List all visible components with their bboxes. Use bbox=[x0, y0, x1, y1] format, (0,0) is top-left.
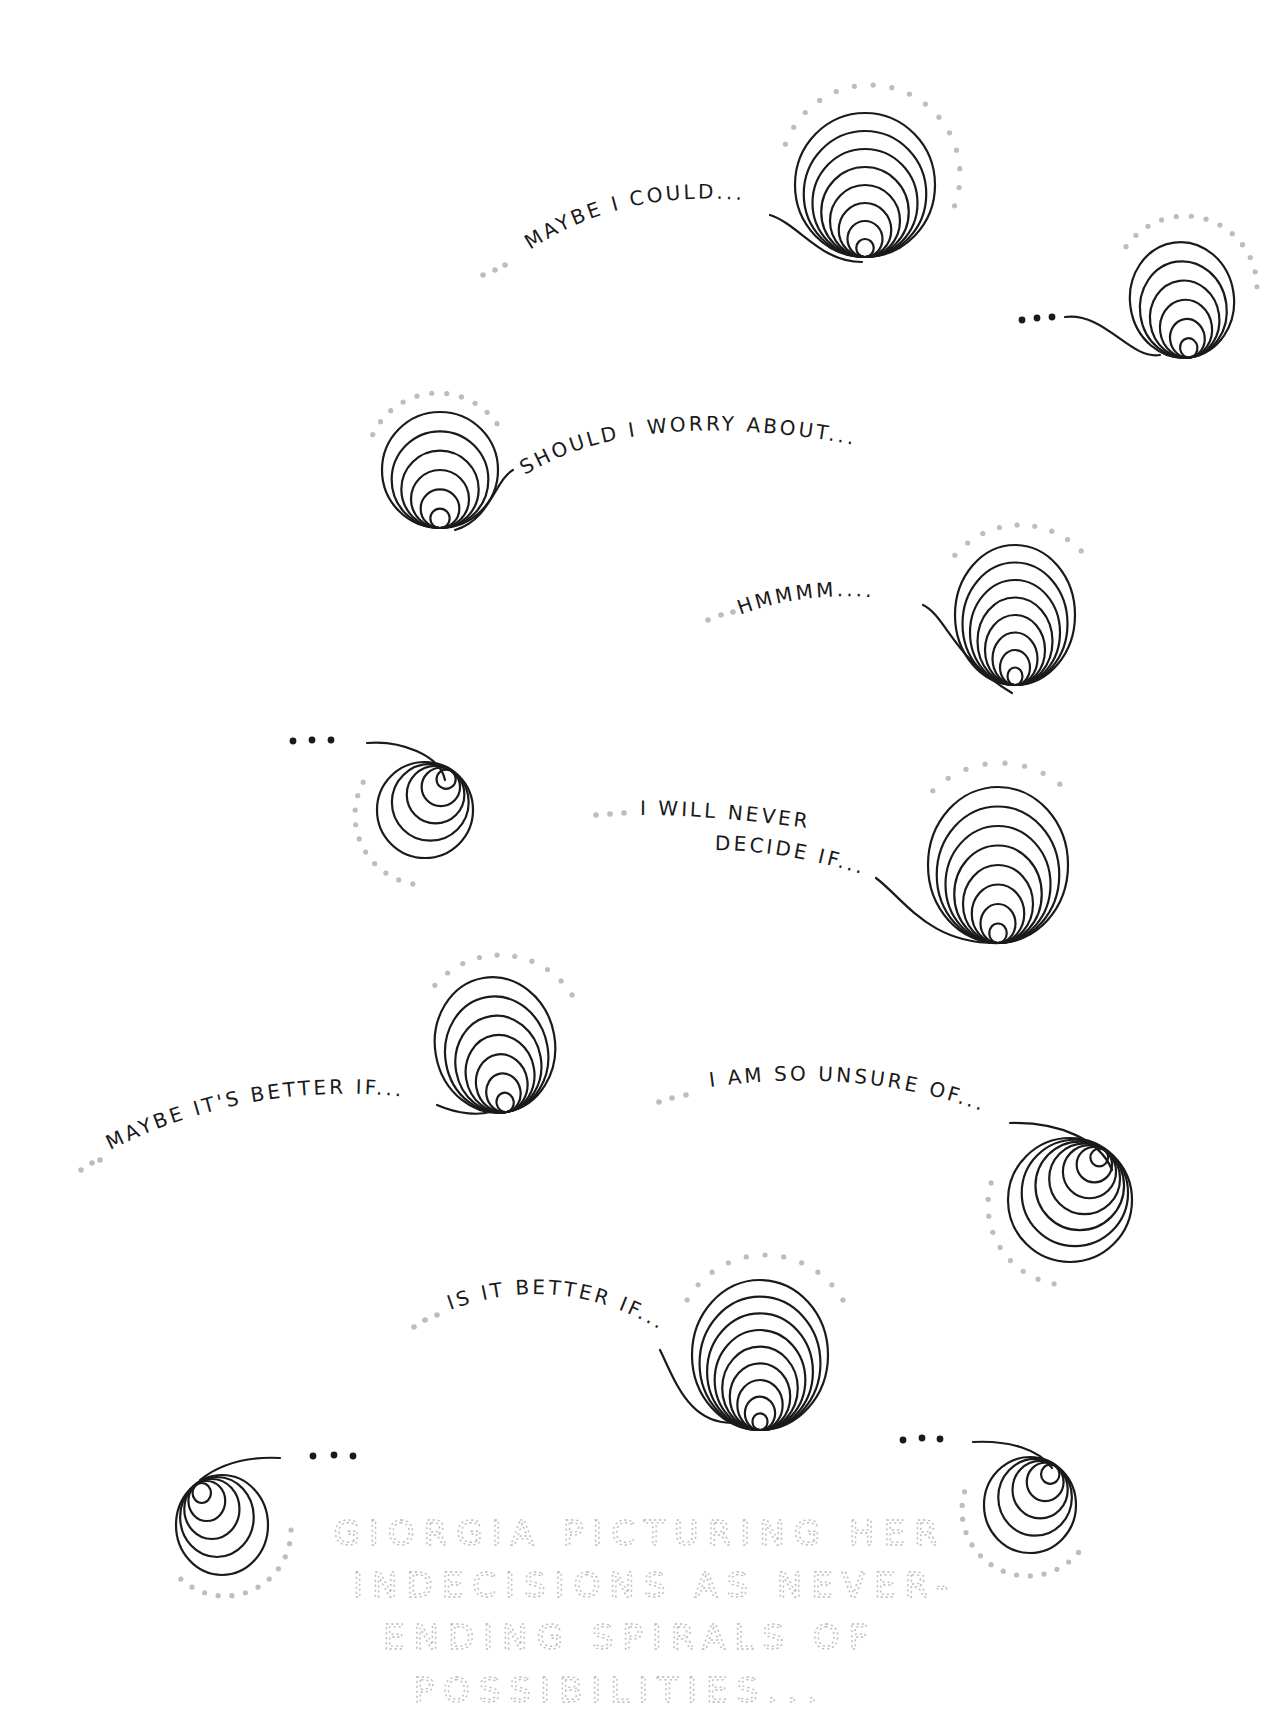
lead-dot bbox=[607, 811, 613, 817]
ellipsis-dot bbox=[900, 1437, 907, 1444]
spiral-icon bbox=[692, 1280, 828, 1430]
spiral-icon bbox=[1122, 235, 1241, 364]
lead-dot bbox=[502, 262, 508, 268]
caption-line-2: INDECISIONS AS NEVER- bbox=[353, 1565, 957, 1605]
caption-line-3: ENDING SPIRALS OF bbox=[383, 1617, 877, 1657]
ellipsis-dot bbox=[1019, 317, 1026, 324]
dotted-halo bbox=[370, 391, 499, 437]
dotted-halo bbox=[684, 1252, 845, 1302]
lead-dot bbox=[669, 1095, 675, 1101]
ellipsis-dot bbox=[328, 737, 335, 744]
spiral-icon bbox=[424, 968, 566, 1123]
ellipsis-dot bbox=[919, 1435, 926, 1442]
lead-dot bbox=[730, 609, 736, 615]
thought-ellipsis-top-right bbox=[1019, 214, 1260, 365]
thought-text: DECIDE IF... bbox=[715, 831, 869, 880]
thought-text: IS IT BETTER IF... bbox=[444, 1275, 671, 1335]
thought-should-i-worry: SHOULD I WORRY ABOUT...? bbox=[0, 0, 859, 530]
dotted-halo bbox=[178, 1527, 293, 1598]
lead-dot bbox=[78, 1167, 84, 1173]
thought-text: I WILL NEVER bbox=[640, 796, 812, 833]
spiral-icon bbox=[377, 762, 473, 858]
thought-ellipsis-bottom-left bbox=[176, 1452, 356, 1599]
dotted-halo bbox=[960, 1489, 1082, 1578]
lead-dot bbox=[89, 1160, 95, 1166]
thought-i-will-never-decide: I WILL NEVERDECIDE IF... bbox=[593, 761, 1068, 944]
thought-text: MAYBE I COULD... bbox=[520, 180, 746, 255]
thought-hmmmm: HMMMM.... bbox=[705, 522, 1084, 693]
lead-dot bbox=[411, 1324, 417, 1330]
spiral-icon bbox=[928, 787, 1068, 943]
dotted-halo bbox=[952, 522, 1083, 558]
spiral-tail bbox=[367, 743, 445, 780]
thought-maybe-its-better-if: MAYBE IT'S BETTER IF... bbox=[78, 952, 574, 1172]
spiral-icon bbox=[382, 412, 498, 528]
thought-maybe-i-could: MAYBE I COULD... bbox=[480, 82, 962, 277]
ellipsis-dot bbox=[309, 737, 316, 744]
spiral-icon bbox=[1008, 1138, 1132, 1262]
spiral-icon bbox=[795, 113, 935, 257]
ellipsis-dot bbox=[331, 1452, 338, 1459]
lead-dot bbox=[434, 1312, 440, 1318]
ellipsis-dot bbox=[310, 1453, 317, 1460]
lead-dot bbox=[621, 810, 627, 816]
spiral-tail bbox=[1065, 317, 1160, 356]
caption-line-1: GIORGIA PICTURING HER bbox=[333, 1513, 946, 1553]
lead-dot bbox=[683, 1092, 689, 1098]
dotted-halo bbox=[1123, 214, 1259, 290]
thought-is-it-better-if: IS IT BETTER IF... bbox=[411, 1252, 845, 1430]
thought-ellipsis-bottom-right bbox=[900, 1435, 1082, 1579]
caption: GIORGIA PICTURING HER INDECISIONS AS NEV… bbox=[333, 1513, 956, 1710]
lead-dot bbox=[492, 267, 498, 273]
lead-dot bbox=[705, 617, 711, 623]
spiral-icon bbox=[176, 1475, 268, 1575]
ellipsis-dot bbox=[1034, 315, 1041, 322]
illustration-canvas: MAYBE I COULD...SHOULD I WORRY ABOUT...?… bbox=[0, 0, 1285, 1735]
thought-text: SHOULD I WORRY ABOUT...? bbox=[0, 0, 859, 479]
ellipsis-dot bbox=[1049, 314, 1056, 321]
thought-text: I AM SO UNSURE OF... bbox=[708, 1062, 990, 1117]
thought-spirals-layer: MAYBE I COULD...SHOULD I WORRY ABOUT...?… bbox=[0, 0, 1260, 1598]
thought-i-am-so-unsure: I AM SO UNSURE OF... bbox=[656, 1062, 1132, 1287]
ellipsis-dot bbox=[290, 738, 297, 745]
ellipsis-dot bbox=[937, 1436, 944, 1443]
dotted-halo bbox=[432, 952, 574, 997]
lead-dot bbox=[422, 1317, 428, 1323]
spiral-icon bbox=[984, 1457, 1076, 1553]
lead-dot bbox=[593, 812, 599, 818]
thought-text: MAYBE IT'S BETTER IF... bbox=[102, 1075, 406, 1155]
lead-dot bbox=[97, 1157, 103, 1163]
dotted-halo bbox=[930, 761, 1062, 794]
lead-dot bbox=[480, 272, 486, 278]
ellipsis-dot bbox=[350, 1453, 357, 1460]
lead-dot bbox=[718, 612, 724, 618]
thought-text: HMMMM.... bbox=[734, 577, 876, 619]
lead-dot bbox=[656, 1099, 662, 1105]
thought-ellipsis-left bbox=[290, 737, 473, 887]
caption-line-4: POSSIBILITIES... bbox=[413, 1670, 826, 1710]
